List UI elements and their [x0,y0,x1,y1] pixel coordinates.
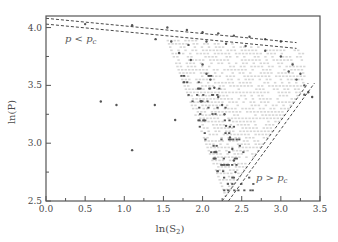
data-point [166,26,168,28]
annotation-p-greater-pc: p > pc [256,172,288,185]
right-bound-left-line [222,83,308,201]
data-point [221,104,223,106]
data-point [131,149,133,151]
annotation-p-less-pc: p < pc [65,33,97,46]
y-tick-label: 2.5 [28,196,43,206]
data-point [264,49,266,51]
data-point [280,55,282,57]
data-point [295,78,297,80]
data-point [223,113,225,115]
data-point [217,32,219,34]
y-tick-label: 3.5 [28,80,43,90]
data-point [154,38,156,40]
data-point [287,70,289,72]
data-point [186,29,188,31]
data-point [303,84,305,86]
data-point [154,104,156,106]
y-axis-label: ln(P) [6,100,17,124]
x-tick-label: 0.5 [78,204,93,214]
x-tick-label: 2.0 [195,204,210,214]
data-point [205,40,207,42]
x-tick-label: 2.5 [235,204,250,214]
x-tick-label: 3.0 [274,204,289,214]
data-point [170,40,172,42]
data-point [84,23,86,25]
x-tick-label: 1.0 [117,204,132,214]
data-point [178,52,180,54]
y-axis-ticks: 2.53.03.54.0 [28,23,51,206]
data-point [244,45,246,47]
x-tick-label: 3.5 [313,204,328,214]
data-point [217,96,219,98]
data-point [174,119,176,121]
right-bound-right-line [228,83,314,201]
data-point [209,78,211,80]
data-point [213,86,215,88]
data-point [229,136,231,138]
data-point [311,96,313,98]
y-tick-label: 3.0 [28,138,43,148]
data-point [234,171,236,173]
data-point [233,159,235,161]
data-point [248,36,250,38]
data-point [225,43,227,45]
x-axis-label: ln(S2) [156,223,185,236]
x-axis-ticks: 0.00.51.01.52.02.53.03.5 [39,196,328,214]
y-tick-label: 4.0 [28,23,43,33]
data-point [190,59,192,61]
data-point [291,63,293,65]
data-point [115,104,117,106]
data-point [100,100,102,102]
data-point [205,73,207,75]
dark-points [84,23,313,191]
interior-points [167,40,306,197]
data-point [225,125,227,127]
data-point [231,148,233,150]
data-point [187,44,189,46]
data-point [201,63,203,65]
scatter-chart: 0.00.51.01.52.02.53.03.5 2.53.03.54.0 ln… [0,0,338,242]
x-tick-label: 1.5 [156,204,171,214]
data-point [131,24,133,26]
data-point [299,73,301,75]
